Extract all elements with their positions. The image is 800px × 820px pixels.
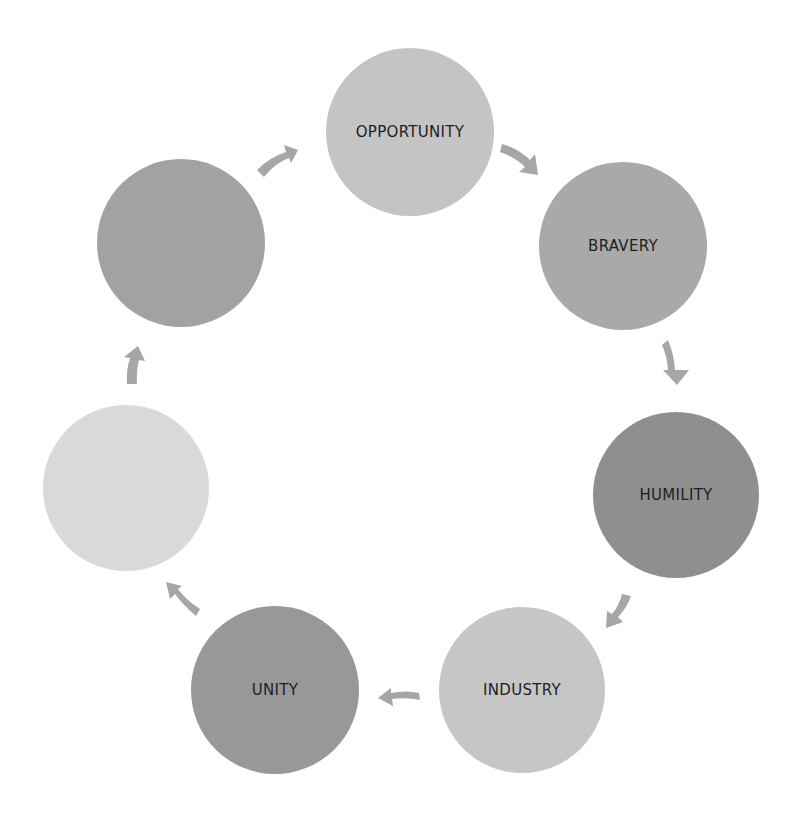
arrow-icon: [662, 340, 689, 385]
node-humility: HUMILITY: [593, 412, 759, 578]
node-label: INDUSTRY: [483, 681, 561, 699]
cycle-diagram: OPPORTUNITY BRAVERY HUMILITY INDUSTRY UN…: [0, 0, 800, 820]
node-opportunity: OPPORTUNITY: [326, 48, 494, 216]
arrow-icon: [606, 594, 631, 628]
node-label: UNITY: [252, 681, 298, 699]
node-label: BRAVERY: [588, 237, 658, 255]
node-unity: UNITY: [191, 606, 359, 774]
node-label: OPPORTUNITY: [356, 123, 464, 141]
node-label: HUMILITY: [639, 486, 712, 504]
arrow-icon: [124, 346, 145, 384]
node-blank-upper-left: [97, 159, 265, 327]
node-industry: INDUSTRY: [439, 607, 605, 773]
arrow-icon: [500, 144, 538, 175]
arrow-icon: [378, 688, 420, 706]
node-blank-left: [43, 405, 209, 571]
node-bravery: BRAVERY: [539, 162, 707, 330]
arrow-icon: [257, 145, 298, 177]
arrow-icon: [166, 582, 200, 616]
